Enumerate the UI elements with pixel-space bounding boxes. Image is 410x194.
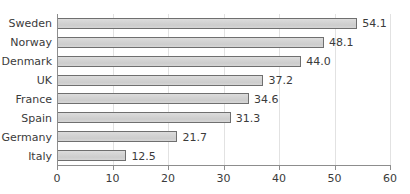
- bar-germany: [57, 131, 177, 142]
- bar-france: [57, 93, 249, 104]
- bar-row: [57, 112, 390, 123]
- y-axis-label-denmark: Denmark: [0, 56, 52, 67]
- y-axis-line: [57, 14, 58, 166]
- x-tick-30: [224, 165, 225, 170]
- bar-value-label-france: 34.6: [254, 94, 279, 105]
- x-tick-label-10: 10: [106, 173, 120, 184]
- y-axis-label-germany: Germany: [0, 132, 52, 143]
- gridline-60: [390, 14, 391, 165]
- bar-denmark: [57, 56, 301, 67]
- bar-norway: [57, 37, 324, 48]
- x-tick-label-40: 40: [272, 173, 286, 184]
- x-tick-label-60: 60: [383, 173, 397, 184]
- x-tick-label-50: 50: [328, 173, 342, 184]
- bar-uk: [57, 75, 263, 86]
- bar-row: [57, 18, 390, 29]
- bar-italy: [57, 150, 126, 161]
- y-axis-label-italy: Italy: [0, 151, 52, 162]
- bar-value-label-norway: 48.1: [329, 37, 354, 48]
- x-tick-label-30: 30: [217, 173, 231, 184]
- x-tick-label-0: 0: [54, 173, 61, 184]
- bar-row: [57, 56, 390, 67]
- plot-area: 54.148.144.037.234.631.321.712.5: [57, 14, 390, 165]
- bar-value-label-denmark: 44.0: [306, 56, 331, 67]
- x-tick-label-20: 20: [161, 173, 175, 184]
- bar-spain: [57, 112, 231, 123]
- bar-sweden: [57, 18, 357, 29]
- y-axis-label-sweden: Sweden: [0, 18, 52, 29]
- bar-value-label-italy: 12.5: [131, 151, 156, 162]
- y-axis-labels: SwedenNorwayDenmarkUKFranceSpainGermanyI…: [0, 14, 52, 165]
- x-tick-50: [335, 165, 336, 170]
- x-tick-0: [57, 165, 58, 170]
- y-axis-label-uk: UK: [0, 75, 52, 86]
- x-tick-10: [113, 165, 114, 170]
- x-tick-20: [168, 165, 169, 170]
- bar-row: [57, 150, 390, 161]
- bar-row: [57, 75, 390, 86]
- bar-row: [57, 93, 390, 104]
- bar-value-label-germany: 21.7: [182, 132, 207, 143]
- y-axis-label-spain: Spain: [0, 113, 52, 124]
- bar-value-label-sweden: 54.1: [362, 18, 387, 29]
- x-tick-40: [279, 165, 280, 170]
- bar-value-label-spain: 31.3: [236, 113, 261, 124]
- x-tick-60: [390, 165, 391, 170]
- y-axis-label-norway: Norway: [0, 37, 52, 48]
- bar-chart: SwedenNorwayDenmarkUKFranceSpainGermanyI…: [0, 0, 410, 194]
- bar-value-label-uk: 37.2: [268, 75, 293, 86]
- bar-row: [57, 131, 390, 142]
- y-axis-label-france: France: [0, 94, 52, 105]
